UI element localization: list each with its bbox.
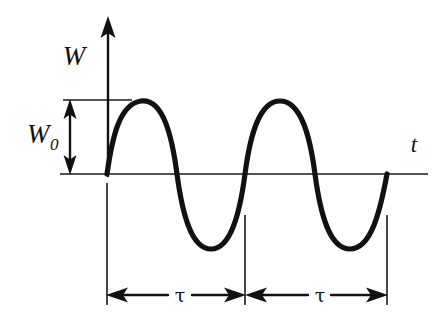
period-label-first: τ [175,284,186,306]
period-label-second: τ [315,284,326,306]
t-axis-label: t [411,132,418,157]
waveform-diagram: W t W 0 τ τ [0,0,444,331]
waveform-figure: W t W 0 τ τ [0,0,444,331]
amplitude-label-main: W [27,119,52,149]
sine-wave-curve [107,101,387,249]
w-axis-label: W [63,41,88,71]
amplitude-label-subscript: 0 [50,135,59,154]
